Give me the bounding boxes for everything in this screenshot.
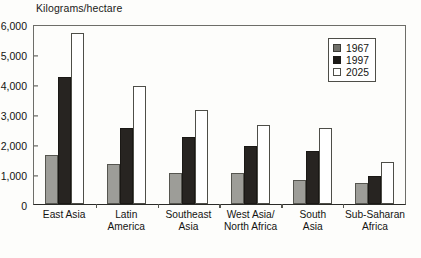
bar-1967 <box>45 155 58 205</box>
y-axis-tick-label: 1,000 <box>1 170 34 182</box>
legend-item: 1967 <box>333 42 369 54</box>
group-separator-tick <box>219 204 220 208</box>
legend-swatch-icon <box>333 44 341 52</box>
bar-chart: Kilograms/hectare 01,0002,0003,0004,0005… <box>0 0 421 258</box>
group-separator-tick <box>158 204 159 208</box>
legend-label: 2025 <box>346 67 369 78</box>
x-axis-label: East Asia <box>33 209 95 234</box>
legend-swatch-icon <box>333 68 341 76</box>
y-axis-tick-label: 6,000 <box>1 20 34 32</box>
y-axis-title: Kilograms/hectare <box>36 2 122 14</box>
bar-1967 <box>107 164 120 204</box>
y-axis-tick-label: 5,000 <box>1 50 34 62</box>
bar-2025 <box>319 128 332 204</box>
bar-1967 <box>169 173 182 205</box>
bar-1997 <box>306 151 319 204</box>
bar-2025 <box>195 110 208 204</box>
bar-1997 <box>244 146 257 204</box>
group-separator-tick <box>281 204 282 208</box>
legend-label: 1997 <box>346 55 369 66</box>
legend-item: 2025 <box>333 66 369 78</box>
bar-1997 <box>120 128 133 204</box>
bar-1997 <box>182 137 195 204</box>
group-separator-tick <box>96 204 97 208</box>
bar-1997 <box>368 176 381 204</box>
bar-group <box>34 26 96 204</box>
x-axis-label: Latin America <box>95 209 157 234</box>
bar-1967 <box>231 173 244 204</box>
bar-group <box>158 26 220 204</box>
bar-group <box>219 26 281 204</box>
bar-group <box>96 26 158 204</box>
x-axis-label: South Asia <box>282 209 344 234</box>
chart-legend: 196719972025 <box>328 38 376 82</box>
x-axis-label: Southeast Asia <box>157 209 219 234</box>
x-axis-labels: East AsiaLatin AmericaSoutheast AsiaWest… <box>33 209 406 234</box>
legend-item: 1997 <box>333 54 369 66</box>
y-axis-tick-label: 3,000 <box>1 110 34 122</box>
bar-2025 <box>257 125 270 204</box>
legend-swatch-icon <box>333 56 341 64</box>
group-separator-tick <box>343 204 344 208</box>
bar-2025 <box>381 162 394 204</box>
x-axis-label: West Asia/ North Africa <box>220 209 282 234</box>
legend-label: 1967 <box>346 43 369 54</box>
bar-2025 <box>133 86 146 205</box>
bar-2025 <box>71 33 84 204</box>
bar-1967 <box>355 183 368 204</box>
y-axis-tick-label: 2,000 <box>1 140 34 152</box>
bar-1967 <box>293 180 306 204</box>
y-axis-tick-label: 4,000 <box>1 80 34 92</box>
bar-1997 <box>58 77 71 204</box>
x-axis-label: Sub-Saharan Africa <box>344 209 406 234</box>
